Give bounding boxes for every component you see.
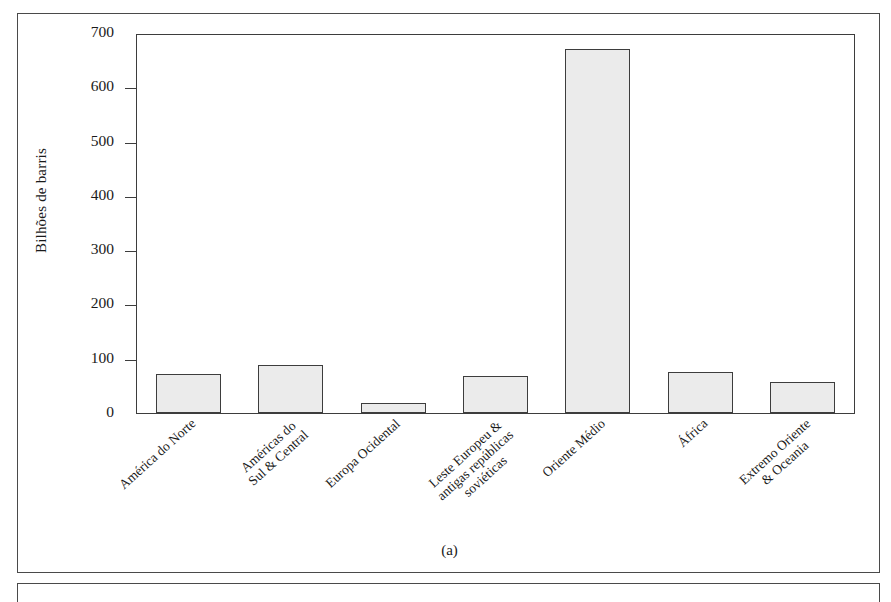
bar-cell: [342, 35, 444, 413]
bar-6[interactable]: [668, 372, 733, 413]
figure-panel-a: Bilhões de barris 0100200300400500600700…: [17, 13, 880, 573]
y-tick-mark: [125, 88, 136, 89]
figure-panel-b: [17, 583, 880, 602]
bar-2[interactable]: [258, 365, 323, 413]
y-tick-label: 600: [91, 77, 114, 95]
y-axis-ticks: 0100200300400500600700: [18, 14, 136, 434]
y-tick-label: 300: [91, 240, 114, 258]
y-tick-mark: [125, 305, 136, 306]
bar-series: [137, 35, 854, 413]
y-tick-mark: [125, 251, 136, 252]
y-tick-label: 700: [91, 23, 114, 41]
bar-cell: [444, 35, 546, 413]
y-tick-mark: [125, 360, 136, 361]
y-tick-label: 100: [91, 349, 114, 367]
bar-4[interactable]: [463, 376, 528, 413]
y-tick-label: 500: [91, 132, 114, 150]
y-tick-label: 200: [91, 294, 114, 312]
y-tick-label: 400: [91, 186, 114, 204]
x-label-line: Europa Ocidental: [322, 416, 403, 491]
bar-chart: Bilhões de barris 0100200300400500600700…: [18, 14, 881, 574]
bar-cell: [239, 35, 341, 413]
bar-cell: [137, 35, 239, 413]
x-label-line: África: [675, 416, 711, 450]
bar-5[interactable]: [565, 49, 630, 414]
bar-cell: [547, 35, 649, 413]
bar-3[interactable]: [361, 403, 426, 413]
figure-caption: (a): [18, 542, 881, 559]
bar-cell: [649, 35, 751, 413]
x-label-line: Oriente Médio: [539, 416, 608, 480]
bar-cell: [752, 35, 854, 413]
y-tick-mark: [125, 143, 136, 144]
bar-1[interactable]: [156, 374, 221, 413]
y-tick-label: 0: [106, 403, 114, 421]
bar-7[interactable]: [770, 382, 835, 413]
y-tick-mark: [125, 197, 136, 198]
